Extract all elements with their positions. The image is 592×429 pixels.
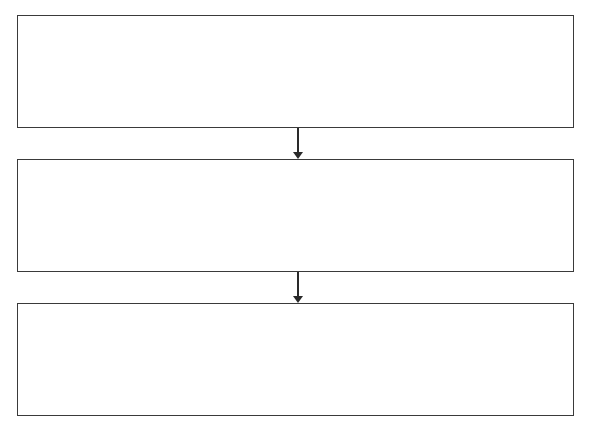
flow-step-2-box bbox=[17, 159, 574, 272]
arrow-down-icon bbox=[293, 152, 303, 159]
arrow-down-icon bbox=[293, 296, 303, 303]
arrow-2-to-3-line bbox=[297, 272, 299, 296]
arrow-1-to-2-line bbox=[297, 128, 299, 152]
flow-step-3-box bbox=[17, 303, 574, 416]
flow-step-1-box bbox=[17, 15, 574, 128]
